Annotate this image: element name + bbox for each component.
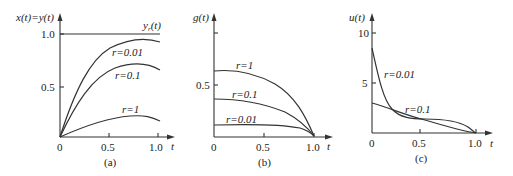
x-tick-label: 0: [211, 141, 217, 153]
panel-caption: (b): [258, 156, 271, 169]
y-axis-label: u(t): [349, 11, 365, 24]
series-label: r=1: [122, 103, 139, 115]
x-axis-label: t: [327, 140, 331, 152]
x-axis-arrow-icon: [167, 135, 175, 140]
x-tick-label: 1.0: [468, 137, 482, 149]
panel-c: 10 5 0 0.5 1.0 u(t) t (c) r=0.01 r=0.1: [349, 11, 494, 165]
x-tick-label: 1.0: [149, 141, 163, 153]
x-axis-label: t: [171, 140, 175, 152]
y-tick-label: 0.5: [41, 81, 55, 93]
series-label: r=1: [236, 59, 253, 71]
y-tick-label: 10: [358, 27, 370, 39]
series-label: r=0.1: [115, 69, 140, 81]
x-tick-label: 0.5: [412, 137, 426, 149]
y-axis-arrow-icon: [370, 13, 375, 21]
x-axis-arrow-icon: [485, 131, 493, 136]
series-label: r=0.01: [112, 46, 143, 58]
series-label: r=0.1: [405, 103, 430, 115]
x-tick-label: 0.5: [256, 141, 270, 153]
panel-b: 0.5 0 0.5 1.0 g(t) t (b) r=1 r=0.1 r=0.0…: [193, 11, 333, 169]
figure: 1.0 0.5 0 0.5 1.0 x(t)=y(t) t (a) yr(t) …: [0, 0, 513, 176]
y-axis-arrow-icon: [58, 13, 63, 21]
y-tick-label: 1.0: [41, 28, 55, 40]
panel-caption: (a): [104, 156, 117, 169]
series-r-1: [214, 71, 314, 136]
y-axis-arrow-icon: [212, 13, 217, 21]
x-axis-arrow-icon: [325, 135, 333, 140]
series-r-0.1: [60, 64, 160, 137]
x-tick-label: 0: [369, 137, 375, 149]
panel-caption: (c): [415, 152, 428, 165]
series-label: r=0.01: [384, 68, 415, 80]
series-r-0.01: [60, 39, 160, 137]
series-label: r=0.1: [232, 88, 257, 100]
y-axis-label: x(t)=y(t): [15, 11, 54, 24]
x-axis-label: t: [490, 137, 494, 149]
y-axis-label: g(t): [193, 11, 209, 24]
y-tick-label: 5: [362, 77, 368, 89]
x-tick-label: 1.0: [306, 141, 320, 153]
series-label-yr: yr(t): [142, 19, 161, 33]
x-tick-label: 0.5: [101, 141, 115, 153]
x-tick-label: 0: [57, 141, 63, 153]
series-label: r=0.01: [226, 113, 257, 125]
panel-a: 1.0 0.5 0 0.5 1.0 x(t)=y(t) t (a) yr(t) …: [15, 11, 175, 169]
y-tick-label: 0.5: [196, 79, 210, 91]
series-r-1: [60, 116, 160, 137]
